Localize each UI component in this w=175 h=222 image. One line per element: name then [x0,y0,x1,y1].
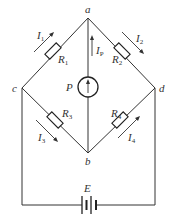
resistor-r3 [47,112,63,128]
label-i2: I2 [135,32,144,46]
node-label-a: a [85,3,91,15]
battery-icon [82,196,96,214]
node-label-b: b [85,155,91,167]
bridge-wires [22,18,155,205]
meter-p [78,77,98,97]
wire-c-battery [22,88,82,205]
wire-d-battery [96,88,155,205]
label-meter-p: P [65,81,73,93]
label-i1: I1 [36,29,45,43]
circuit-diagram: a b c d R1 R2 R3 R4 I1 I2 I3 I4 IP P E [0,0,175,222]
label-ip: IP [95,44,104,58]
label-i4: I4 [127,131,136,145]
label-i3: I3 [37,131,46,145]
label-source-e: E [83,182,91,194]
label-r4: R4 [110,107,122,121]
current-arrow-ip [90,35,94,56]
node-label-d: d [159,82,165,94]
label-r1: R1 [57,53,69,67]
label-r3: R3 [61,107,73,121]
node-label-c: c [12,82,17,94]
